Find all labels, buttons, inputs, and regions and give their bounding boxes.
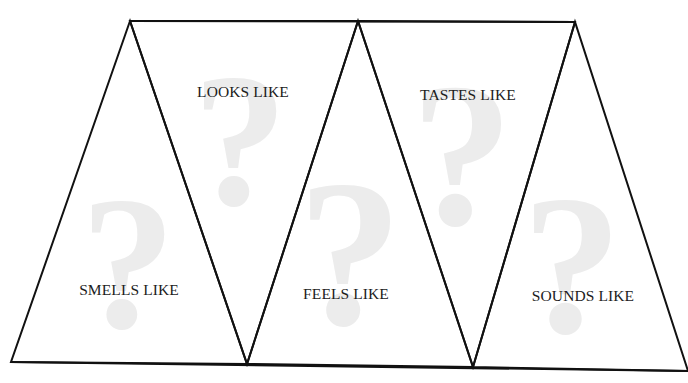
label-sounds-like: SOUNDS LIKE: [532, 288, 634, 304]
label-tastes-like: TASTES LIKE: [420, 87, 516, 103]
top-edge-line: [130, 21, 575, 22]
label-looks-like: LOOKS LIKE: [197, 84, 289, 100]
sensory-triangle-diagram: ? ? ? ? ? SMELLS LIKE LOOKS LIKE FEELS L…: [0, 0, 688, 383]
question-mark-icon-feels: ?: [298, 148, 403, 358]
question-mark-icon-tastes: ?: [411, 52, 514, 257]
label-feels-like: FEELS LIKE: [303, 286, 389, 302]
question-mark-icon-smells: ?: [81, 168, 176, 358]
question-mark-icon-sounds: ?: [522, 165, 622, 365]
question-mark-icon-looks: ?: [193, 45, 288, 235]
label-smells-like: SMELLS LIKE: [79, 282, 179, 298]
